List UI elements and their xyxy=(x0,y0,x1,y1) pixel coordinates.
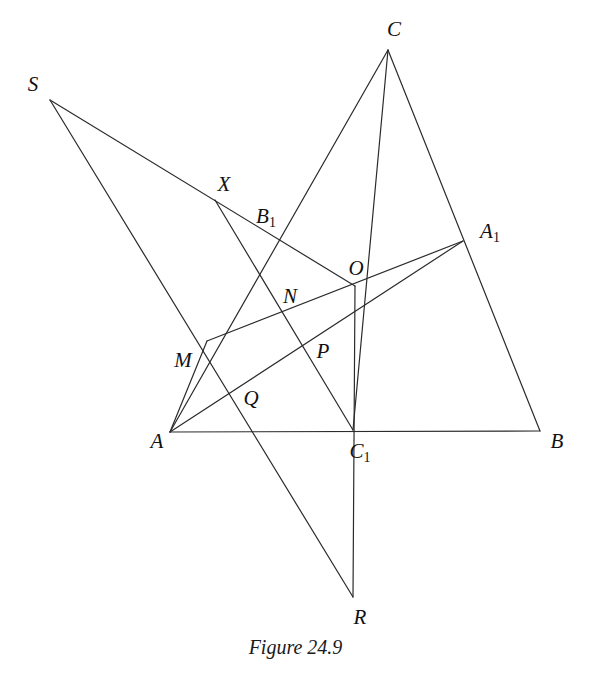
figure-container: SCXB1A1ONMPQAC1BR Figure 24.9 xyxy=(0,0,591,677)
vertex-label-a: A xyxy=(151,431,164,452)
side-AC xyxy=(170,50,388,432)
vertex-label-subscript: 1 xyxy=(364,450,371,465)
line-S-R xyxy=(50,100,353,597)
geometry-drawing xyxy=(0,0,591,677)
vertex-label-text: B xyxy=(256,204,269,228)
vertex-label-a1: A1 xyxy=(480,221,500,245)
vertex-label-o: O xyxy=(348,258,363,279)
vertex-label-text: C xyxy=(387,17,401,41)
vertex-label-subscript: 1 xyxy=(493,230,500,245)
vertex-label-text: P xyxy=(317,339,330,363)
vertex-label-p: P xyxy=(317,341,330,362)
vertex-label-c1: C1 xyxy=(349,441,370,465)
vertex-label-text: Q xyxy=(243,386,258,410)
vertex-label-r: R xyxy=(354,607,367,628)
cevian-A-A1 xyxy=(170,241,463,432)
figure-caption: Figure 24.9 xyxy=(0,636,591,659)
line-S-X-O xyxy=(50,100,355,286)
vertex-label-text: N xyxy=(283,284,297,308)
vertex-label-q: Q xyxy=(243,388,258,409)
vertex-label-text: O xyxy=(348,256,363,280)
vertex-label-s: S xyxy=(28,74,39,95)
vertex-label-subscript: 1 xyxy=(269,215,276,230)
vertex-label-text: M xyxy=(174,348,192,372)
vertex-label-text: A xyxy=(480,219,493,243)
vertex-label-text: X xyxy=(218,172,231,196)
vertex-label-text: S xyxy=(28,72,39,96)
vertex-label-text: A xyxy=(151,429,164,453)
line-M-A1 xyxy=(207,241,463,341)
cevian-C-C1 xyxy=(353,50,388,430)
vertex-label-x: X xyxy=(218,174,231,195)
vertex-label-n: N xyxy=(283,286,297,307)
vertex-label-b: B xyxy=(551,431,564,452)
vertex-label-m: M xyxy=(174,350,192,371)
vertex-label-text: C xyxy=(349,439,363,463)
line-X-C1 xyxy=(215,200,353,430)
side-CB xyxy=(388,50,540,431)
vertex-label-text: B xyxy=(551,429,564,453)
vertex-label-b1: B1 xyxy=(256,206,276,230)
segment-layer xyxy=(50,50,540,597)
vertex-label-c: C xyxy=(387,19,401,40)
side-AB xyxy=(170,431,540,432)
vertex-label-text: R xyxy=(354,605,367,629)
